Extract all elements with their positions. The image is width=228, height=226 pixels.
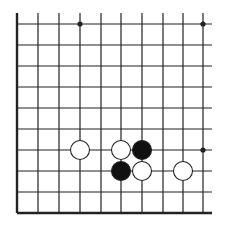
star-point-icon	[200, 147, 205, 152]
black-stone	[133, 141, 152, 160]
star-point-icon	[77, 21, 82, 26]
white-stone	[71, 141, 90, 160]
star-point-icon	[200, 21, 205, 26]
white-stone	[174, 162, 193, 181]
grid-lines	[17, 13, 212, 213]
white-stone	[112, 141, 131, 160]
go-board	[0, 0, 228, 226]
white-stone	[133, 162, 152, 181]
black-stone	[112, 162, 131, 181]
stones	[71, 141, 193, 181]
